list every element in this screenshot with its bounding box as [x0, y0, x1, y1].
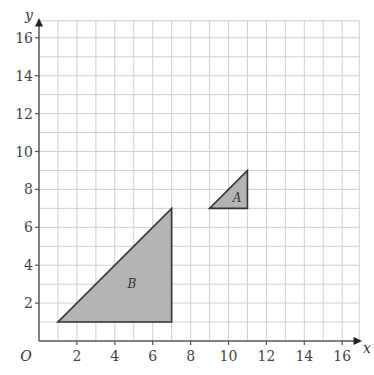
x-tick-label: 10 [220, 348, 238, 364]
y-tick-label: 8 [24, 181, 33, 197]
x-tick-label: 8 [186, 348, 195, 364]
y-tick-label: 10 [15, 144, 33, 160]
coordinate-grid: 246810121416246810121416OxyAB [0, 0, 374, 375]
x-tick-label: 16 [333, 348, 351, 364]
x-axis-label: x [363, 340, 371, 356]
y-tick-label: 12 [15, 106, 33, 122]
triangle-label-b: B [126, 277, 136, 291]
y-tick-label: 6 [24, 219, 33, 235]
y-tick-label: 2 [24, 295, 33, 311]
triangle-label-a: A [232, 191, 242, 205]
x-tick-label: 2 [72, 348, 81, 364]
x-tick-label: 4 [110, 348, 119, 364]
x-tick-label: 6 [148, 348, 157, 364]
x-axis-arrow-icon [354, 337, 363, 345]
y-tick-label: 14 [15, 68, 33, 84]
x-tick-label: 14 [295, 348, 313, 364]
y-tick-label: 16 [15, 30, 33, 46]
y-tick-label: 4 [24, 257, 33, 273]
origin-label: O [20, 348, 32, 364]
y-axis-arrow-icon [35, 18, 43, 27]
x-tick-label: 12 [257, 348, 275, 364]
y-axis-label: y [24, 7, 34, 23]
